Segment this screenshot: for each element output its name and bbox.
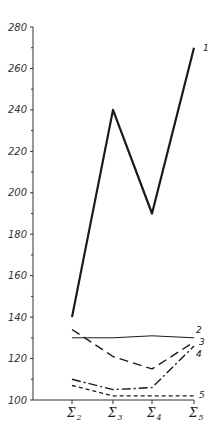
y-tick-label: 240 [8, 104, 27, 115]
series-line-3 [72, 330, 194, 369]
y-tick-label: 120 [8, 353, 27, 364]
y-tick-label: 100 [8, 395, 27, 406]
y-tick-label: 160 [8, 270, 27, 281]
series-line-5 [72, 386, 194, 396]
y-tick-label: 180 [8, 229, 27, 240]
y-tick-label: 200 [8, 187, 27, 198]
series-line-4 [72, 346, 194, 390]
series-label-4: 4 [196, 349, 202, 359]
x-category-label: Σ4 [146, 406, 162, 422]
series-lines [72, 48, 194, 396]
series-label-5: 5 [199, 390, 205, 400]
series-labels: 12345 [196, 43, 209, 400]
series-label-2: 2 [196, 325, 202, 335]
series-label-3: 3 [199, 337, 205, 347]
y-tick-label: 260 [8, 63, 27, 74]
line-chart: 100120140160180200220240260280 Σ2Σ3Σ4Σ5 … [0, 0, 218, 434]
y-tick-label: 220 [8, 146, 27, 157]
x-category-label: Σ3 [107, 406, 123, 422]
series-line-2 [72, 336, 194, 338]
y-tick-label: 280 [8, 22, 27, 33]
y-tick-label: 140 [8, 312, 27, 323]
series-label-1: 1 [203, 43, 209, 53]
y-axis: 100120140160180200220240260280 [8, 22, 33, 406]
x-category-label: Σ2 [66, 406, 82, 422]
x-axis: Σ2Σ3Σ4Σ5 [33, 400, 204, 422]
x-category-label: Σ5 [188, 406, 204, 422]
series-line-1 [72, 48, 194, 317]
